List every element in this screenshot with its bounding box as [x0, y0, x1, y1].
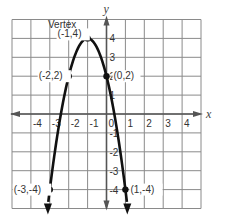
point-label: (0,2): [114, 70, 135, 81]
axes: [10, 16, 203, 211]
x-tick-label: 4: [184, 118, 190, 129]
y-axis-arrow-up-icon: [104, 16, 110, 26]
y-tick-label: -2: [110, 147, 119, 158]
y-tick-label: 3: [110, 52, 116, 63]
point-label: (1,-4): [130, 184, 154, 195]
x-axis-label: x: [205, 107, 212, 121]
x-tick-label: 3: [165, 118, 171, 129]
y-tick-label: -4: [110, 185, 119, 196]
vertex-annotation: Vertex: [48, 19, 76, 30]
point-marker: [122, 186, 128, 192]
x-tick-label: -4: [33, 118, 42, 129]
x-tick-label: -1: [90, 118, 99, 129]
point-label: (-1,4): [58, 28, 82, 39]
point-label: (-3,-4): [14, 184, 41, 195]
point-label: (-2,2): [39, 70, 63, 81]
x-tick-label: 1: [127, 118, 133, 129]
parabola-graph: -4-3-2-1012344321-1-2-3-4 (-1,4)(-2,2)(0…: [0, 0, 225, 219]
x-tick-label: -2: [71, 118, 80, 129]
x-tick-label: 2: [146, 118, 152, 129]
y-tick-label: -3: [110, 166, 119, 177]
y-axis-label: y: [103, 2, 110, 16]
point-marker: [103, 73, 109, 79]
y-tick-label: 4: [110, 33, 116, 44]
